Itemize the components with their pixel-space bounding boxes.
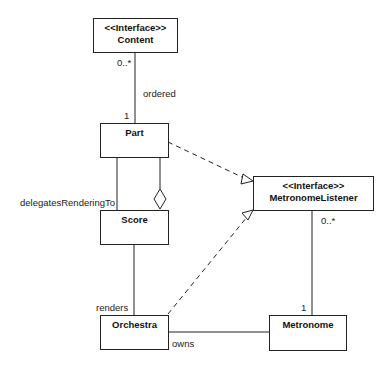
class-score[interactable]: Score	[100, 210, 169, 245]
renders-label: renders	[96, 302, 128, 313]
metronome-listener-stereotype: <<Interface>>	[254, 180, 373, 192]
score-name: Score	[101, 214, 168, 226]
owns-label: owns	[172, 338, 194, 349]
class-part[interactable]: Part	[100, 123, 169, 158]
class-orchestra[interactable]: Orchestra	[100, 315, 169, 350]
part-name: Part	[101, 127, 168, 139]
class-content[interactable]: <<Interface>> Content	[93, 18, 178, 53]
ordered-label: ordered	[143, 88, 176, 99]
content-stereotype: <<Interface>>	[94, 22, 177, 34]
metronome-listener-name: MetronomeListener	[254, 192, 373, 204]
listener-multiplicity: 0..*	[321, 215, 335, 226]
content-name: Content	[94, 34, 177, 46]
metronome-multiplicity: 1	[301, 302, 306, 313]
metronome-name: Metronome	[270, 319, 346, 331]
class-metronome-listener[interactable]: <<Interface>> MetronomeListener	[253, 176, 374, 211]
class-metronome[interactable]: Metronome	[269, 315, 347, 351]
part-multiplicity: 1	[124, 110, 129, 121]
delegates-label: delegatesRenderingTo	[20, 197, 115, 208]
orchestra-name: Orchestra	[101, 319, 168, 331]
content-multiplicity: 0..*	[117, 57, 131, 68]
